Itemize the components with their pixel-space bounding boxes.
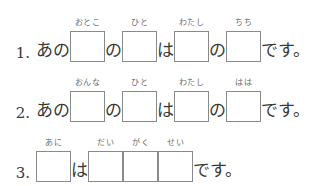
furigana-hint: はは (235, 79, 252, 89)
furigana-hint: ちち (235, 19, 252, 29)
furigana-hint: おとこ (75, 19, 101, 29)
sentence-ending: です。 (261, 42, 310, 62)
answer-cell: ちち (226, 19, 261, 62)
question-number: 1. (0, 46, 36, 62)
answer-box[interactable] (174, 91, 209, 122)
question-number: 3. (0, 166, 36, 182)
question-number: 2. (0, 106, 36, 122)
answer-box[interactable] (226, 91, 261, 122)
furigana-hint: ひと (131, 79, 148, 89)
exercise-row-1: 1. あの おとこ の ひと は わたし の ちち です。 (0, 10, 329, 62)
answer-box[interactable] (70, 91, 105, 122)
answer-cell: ひと (122, 19, 157, 62)
sentence-text: の (105, 42, 122, 62)
answer-box[interactable] (36, 151, 71, 182)
answer-box[interactable] (122, 31, 157, 62)
answer-cell: せい (158, 139, 193, 182)
furigana-hint: ひと (131, 19, 148, 29)
sentence-text: は (157, 42, 174, 62)
worksheet: 1. あの おとこ の ひと は わたし の ちち です。 2. あの おんな (0, 0, 329, 186)
furigana-hint: あに (45, 139, 62, 149)
answer-box[interactable] (226, 31, 261, 62)
answer-box[interactable] (122, 91, 157, 122)
answer-cell: はは (226, 79, 261, 122)
answer-cell: だい (88, 139, 123, 182)
answer-cell: おとこ (70, 19, 105, 62)
exercise-row-3: 3. あに は だい がく せい です。 (0, 130, 329, 182)
sentence-text: の (105, 102, 122, 122)
furigana-hint: わたし (179, 79, 205, 89)
answer-box[interactable] (123, 151, 158, 182)
sentence-ending: です。 (261, 102, 310, 122)
furigana-hint: おんな (75, 79, 101, 89)
answer-box[interactable] (174, 31, 209, 62)
sentence-text: あの (36, 102, 70, 122)
sentence-text: の (209, 102, 226, 122)
sentence-text: の (209, 42, 226, 62)
sentence-ending: です。 (193, 162, 242, 182)
furigana-hint: だい (97, 139, 114, 149)
answer-box[interactable] (70, 31, 105, 62)
answer-cell: わたし (174, 79, 209, 122)
exercise-row-2: 2. あの おんな の ひと は わたし の はは です。 (0, 70, 329, 122)
furigana-hint: がく (132, 139, 149, 149)
answer-cell: わたし (174, 19, 209, 62)
sentence-text: は (157, 102, 174, 122)
sentence-text: あの (36, 42, 70, 62)
furigana-hint: せい (167, 139, 184, 149)
answer-cell: あに (36, 139, 71, 182)
answer-cell: おんな (70, 79, 105, 122)
answer-box[interactable] (88, 151, 123, 182)
sentence-text: は (71, 162, 88, 182)
answer-box[interactable] (158, 151, 193, 182)
answer-cell: ひと (122, 79, 157, 122)
answer-cell: がく (123, 139, 158, 182)
furigana-hint: わたし (179, 19, 205, 29)
